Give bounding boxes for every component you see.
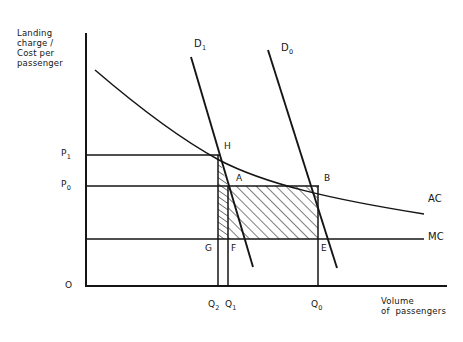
origin-label: O	[65, 280, 72, 291]
point-label-a: A	[236, 173, 242, 184]
curve-label-mc: MC	[428, 231, 444, 243]
diagram-canvas	[0, 0, 463, 342]
curve-label-d0: D0	[281, 42, 293, 57]
tick-label-p0: P0	[61, 179, 71, 192]
tick-label-q0: Q0	[311, 299, 322, 312]
tick-label-q2: Q2	[208, 299, 219, 312]
price-guide-lines	[86, 155, 319, 186]
x-axis-title: Volumeof passengers	[381, 296, 446, 316]
tick-label-p1: P1	[61, 148, 71, 161]
point-label-h: H	[224, 141, 231, 152]
point-label-e: E	[321, 243, 327, 254]
point-label-b: B	[324, 173, 330, 184]
curve-label-d1: D1	[194, 38, 206, 53]
point-label-g: G	[205, 243, 212, 254]
economics-diagram: Landingcharge /Cost perpassenger Volumeo…	[0, 0, 463, 342]
tick-label-q1: Q1	[225, 299, 236, 312]
point-label-f: F	[231, 243, 236, 254]
curve-label-ac: AC	[428, 193, 442, 205]
y-axis-title: Landingcharge /Cost perpassenger	[17, 28, 63, 68]
